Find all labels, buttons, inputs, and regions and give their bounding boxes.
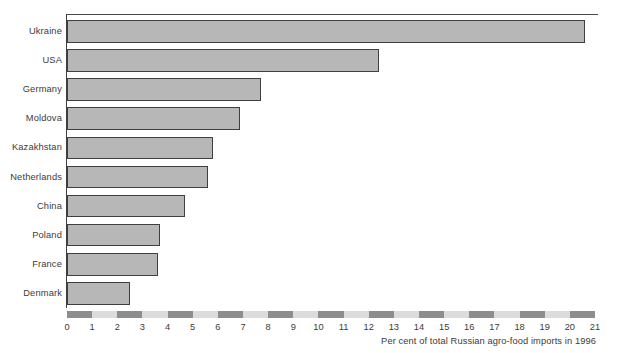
- value-axis-caption: Per cent of total Russian agro-food impo…: [381, 336, 596, 346]
- value-axis-tick-labels: 0123456789101112131415161718192021: [0, 320, 618, 334]
- bar-row: USA: [0, 46, 618, 75]
- axis-band-segment: [570, 311, 595, 318]
- value-axis-tick-label: 13: [381, 320, 407, 334]
- axis-band-segment: [268, 311, 293, 318]
- bar: [67, 282, 130, 305]
- bar: [67, 224, 160, 247]
- value-axis-tick-label: 17: [481, 320, 507, 334]
- bar-rows: UkraineUSAGermanyMoldovaKazakhstanNether…: [0, 17, 618, 308]
- bar-category-label: France: [32, 250, 62, 279]
- bar-category-label: Kazakhstan: [12, 133, 62, 162]
- value-axis-tick-label: 8: [255, 320, 281, 334]
- bar-row: Netherlands: [0, 163, 618, 192]
- bar: [67, 49, 379, 72]
- value-axis-tick-label: 7: [230, 320, 256, 334]
- bar: [67, 166, 208, 189]
- bar-category-label: Ukraine: [29, 17, 62, 46]
- value-axis-tick-label: 21: [582, 320, 608, 334]
- value-axis-band: [67, 311, 595, 318]
- value-axis-tick-label: 2: [104, 320, 130, 334]
- axis-band-segment: [419, 311, 444, 318]
- bar: [67, 137, 213, 160]
- bar-category-label: USA: [42, 46, 62, 75]
- axis-band-segment: [67, 311, 92, 318]
- value-axis-tick-label: 15: [431, 320, 457, 334]
- bar-category-label: Poland: [32, 221, 62, 250]
- value-axis-tick-label: 12: [356, 320, 382, 334]
- axis-band-segment: [117, 311, 142, 318]
- axis-band-segment: [168, 311, 193, 318]
- bar-category-label: Germany: [23, 75, 62, 104]
- bar: [67, 195, 185, 218]
- value-axis-tick-label: 14: [406, 320, 432, 334]
- axis-band-segment: [369, 311, 394, 318]
- bar-row: Moldova: [0, 104, 618, 133]
- value-axis-tick-label: 9: [280, 320, 306, 334]
- bar: [67, 20, 585, 43]
- bar-row: France: [0, 250, 618, 279]
- bar: [67, 107, 240, 130]
- horizontal-bar-chart: UkraineUSAGermanyMoldovaKazakhstanNether…: [0, 0, 618, 353]
- value-axis-tick-label: 3: [129, 320, 155, 334]
- value-axis-tick-label: 6: [205, 320, 231, 334]
- bar-row: Kazakhstan: [0, 133, 618, 162]
- bar-row: Poland: [0, 221, 618, 250]
- value-axis-tick-label: 16: [456, 320, 482, 334]
- bar: [67, 253, 158, 276]
- bar-category-label: Moldova: [26, 104, 62, 133]
- value-axis-tick-label: 20: [557, 320, 583, 334]
- value-axis-tick-label: 19: [532, 320, 558, 334]
- value-axis-tick-label: 10: [305, 320, 331, 334]
- bar: [67, 78, 261, 101]
- value-axis-tick-label: 11: [331, 320, 357, 334]
- plot-top-rule: [67, 14, 598, 15]
- value-axis-tick-label: 4: [155, 320, 181, 334]
- axis-band-segment: [520, 311, 545, 318]
- axis-band-segment: [318, 311, 343, 318]
- bar-row: Denmark: [0, 279, 618, 308]
- bar-category-label: China: [37, 192, 62, 221]
- value-axis-tick-label: 5: [180, 320, 206, 334]
- value-axis-tick-label: 18: [507, 320, 533, 334]
- bar-category-label: Denmark: [23, 279, 62, 308]
- axis-band-segment: [218, 311, 243, 318]
- bar-row: Ukraine: [0, 17, 618, 46]
- bar-row: China: [0, 192, 618, 221]
- bar-row: Germany: [0, 75, 618, 104]
- value-axis-tick-label: 1: [79, 320, 105, 334]
- value-axis-tick-label: 0: [54, 320, 80, 334]
- axis-band-segment: [469, 311, 494, 318]
- bar-category-label: Netherlands: [10, 163, 62, 192]
